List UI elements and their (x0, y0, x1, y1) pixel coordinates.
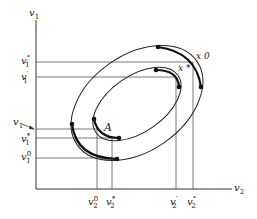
dot-outer-bottom (115, 157, 120, 162)
dot-outer-left (70, 122, 75, 127)
dot-outer-right (199, 85, 204, 90)
dot-inner-bottom (117, 136, 122, 141)
point-label-A: A (104, 122, 112, 133)
dot-inner-top (154, 68, 159, 73)
outer-ellipse (50, 22, 225, 184)
tick-v2-star: v*2 (106, 196, 115, 210)
tick-v2-zero: v02 (88, 196, 98, 210)
y-axis-label: v1 (29, 8, 39, 21)
tick-v1: v1 (13, 117, 23, 130)
dot-outer-top (156, 45, 161, 50)
tick-v2-deg: v°2 (187, 196, 196, 210)
tick-v1-star: v*1 (21, 133, 30, 147)
v1-arrow-head-icon (29, 126, 35, 130)
dot-inner-left (92, 117, 97, 122)
tick-v1-deg: v°1 (21, 55, 30, 69)
tick-v2-prime: v′2 (170, 196, 177, 210)
tick-v1-zero: v01 (21, 151, 31, 165)
dot-inner-right (177, 85, 182, 90)
point-label-x0: x 0 (196, 52, 210, 61)
x-axis-label: v2 (234, 183, 244, 196)
point-label-xstar: x * (178, 64, 190, 73)
diagram-svg (0, 0, 257, 219)
tick-v1-prime: v′1 (21, 71, 28, 85)
diagram-canvas: v1 v2 v°1 v′1 v1 v*1 v01 v02 v*2 v′2 v°2… (0, 0, 257, 219)
